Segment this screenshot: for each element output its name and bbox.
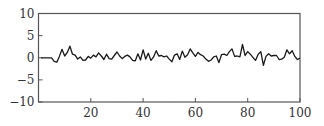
data-series-line — [41, 45, 300, 66]
y-tick-label: −5 — [17, 73, 35, 87]
line-chart: 1050−5−10 20406080100 — [0, 0, 324, 126]
x-tick-label: 20 — [83, 106, 98, 120]
x-axis-labels: 20406080100 — [83, 106, 311, 120]
plot-area — [39, 14, 301, 103]
y-tick-label: 10 — [19, 7, 34, 21]
x-tick-label: 60 — [188, 106, 203, 120]
y-tick-label: 0 — [27, 51, 35, 65]
y-tick-label: 5 — [27, 29, 35, 43]
y-axis-labels: 1050−5−10 — [9, 7, 34, 110]
x-tick-label: 80 — [240, 106, 255, 120]
plot-frame — [39, 14, 301, 103]
y-tick-label: −10 — [9, 95, 34, 109]
x-tick-label: 100 — [289, 106, 312, 120]
x-tick-label: 40 — [135, 106, 150, 120]
